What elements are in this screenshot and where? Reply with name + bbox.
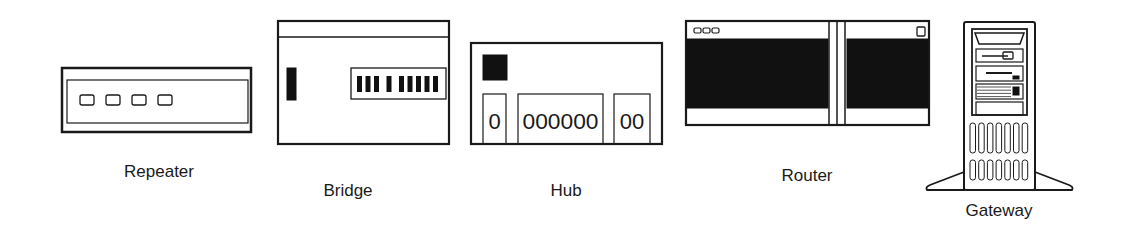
repeater-port: [80, 95, 94, 105]
bridge-led: [366, 76, 371, 92]
bridge-led: [408, 76, 413, 92]
hub-device: 0 000000 00 Hub: [471, 43, 662, 200]
bridge-chassis: [278, 21, 449, 144]
router-left-panel: [687, 39, 828, 108]
router-icon: [686, 21, 929, 125]
hub-label: Hub: [550, 181, 581, 200]
repeater-label: Repeater: [124, 162, 194, 181]
bridge-status-light: [287, 68, 296, 100]
gateway-label: Gateway: [965, 201, 1033, 220]
gateway-device: Gateway: [926, 22, 1072, 220]
bridge-led: [387, 76, 392, 92]
bridge-led: [399, 76, 404, 92]
router-right-panel: [847, 39, 928, 108]
router-label: Router: [781, 166, 832, 185]
network-devices-diagram: Repeater Bridge 0 000000 00 Hub: [0, 0, 1125, 231]
hub-port-glyphs-2: 000000: [523, 109, 599, 134]
hub-icon: 0 000000 00: [471, 43, 662, 144]
gateway-drive-3-indicator: [1013, 87, 1019, 95]
bridge-device: Bridge: [278, 21, 449, 200]
repeater-port: [158, 95, 172, 105]
router-indicator-light: [712, 28, 719, 33]
bridge-led: [433, 76, 438, 92]
bridge-label: Bridge: [323, 181, 372, 200]
router-power-indicator: [917, 27, 925, 36]
hub-status-light: [483, 55, 507, 80]
repeater-icon: [62, 68, 251, 132]
gateway-left-foot: [926, 172, 964, 190]
router-indicator-light: [694, 28, 701, 33]
repeater-ports: [80, 95, 172, 105]
gateway-chassis: [964, 22, 1035, 190]
router-device: Router: [686, 21, 929, 185]
repeater-port: [132, 95, 146, 105]
bridge-led: [357, 76, 362, 92]
router-indicators: [694, 28, 719, 33]
bridge-led: [416, 76, 421, 92]
bridge-leds: [357, 76, 438, 92]
gateway-tower-icon: [926, 22, 1072, 190]
router-indicator-light: [703, 28, 710, 33]
repeater-port: [106, 95, 120, 105]
hub-port-glyphs-1: 0: [488, 109, 500, 134]
bridge-led: [374, 76, 379, 92]
gateway-drive-2-led: [1013, 76, 1019, 79]
bridge-icon: [278, 21, 449, 144]
bridge-led-panel: [351, 68, 446, 99]
hub-port-glyphs-3: 00: [620, 109, 644, 134]
gateway-right-foot: [1035, 172, 1073, 190]
repeater-device: Repeater: [62, 68, 251, 181]
bridge-led: [425, 76, 430, 92]
